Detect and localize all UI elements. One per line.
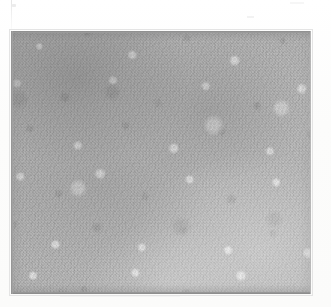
scan-speck-top-left-artifact	[12, 4, 16, 7]
micrograph-image	[11, 31, 311, 294]
scan-speck-top-edge-artifact	[290, 2, 304, 4]
micrograph-edge-left	[11, 31, 13, 294]
micrograph-grain-layer-fine-2	[11, 31, 311, 294]
micrograph-edge-bottom	[11, 292, 311, 294]
page-canvas	[0, 0, 331, 307]
scan-speck-top-right-artifact	[247, 16, 254, 18]
micrograph-edge-right	[310, 31, 311, 294]
scan-speck-bottom-artifact	[60, 296, 180, 297]
micrograph-edge-top	[11, 31, 311, 33]
